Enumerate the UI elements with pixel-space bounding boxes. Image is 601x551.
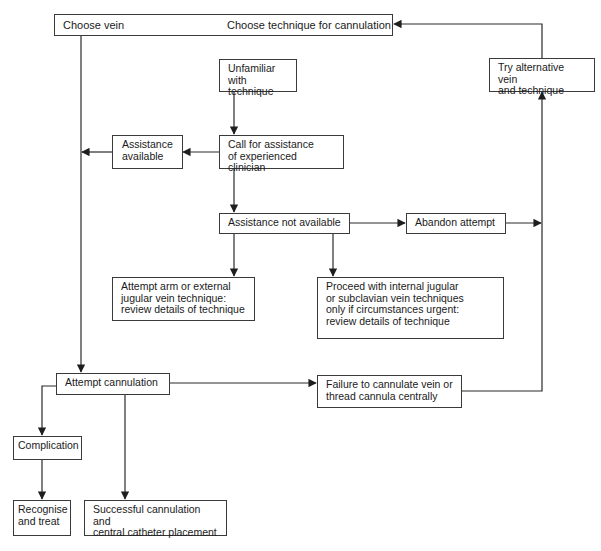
node-attempt-arm: Attempt arm or external jugular vein tec… bbox=[112, 277, 255, 321]
node-call-assistance: Call for assistance of experienced clini… bbox=[219, 135, 344, 169]
edge-attempt-to-complication bbox=[42, 386, 56, 435]
edge-failure-to-try-alternative bbox=[461, 92, 542, 391]
node-abandon-attempt: Abandon attempt bbox=[406, 213, 506, 234]
node-unfamiliar: Unfamiliar with technique bbox=[219, 59, 297, 92]
choose-vein-technique-box: Choose vein Choose technique for cannula… bbox=[54, 14, 393, 36]
node-successful: Successful cannulation and central cathe… bbox=[84, 500, 227, 536]
node-assistance-not-available: Assistance not available bbox=[219, 213, 350, 234]
node-attempt-cannulation: Attempt cannulation bbox=[56, 373, 170, 395]
node-recognise-treat: Recognise and treat bbox=[13, 500, 71, 536]
node-complication: Complication bbox=[13, 436, 82, 460]
node-assistance-available: Assistance available bbox=[112, 135, 183, 169]
edge-try-alternative-to-choose-technique bbox=[394, 24, 542, 58]
choose-technique-label: Choose technique for cannulation bbox=[227, 19, 391, 31]
node-proceed-internal: Proceed with internal jugular or subclav… bbox=[317, 277, 504, 339]
choose-vein-label: Choose vein bbox=[63, 19, 124, 31]
node-try-alternative: Try alternative vein and technique bbox=[489, 58, 595, 92]
node-failure: Failure to cannulate vein or thread cann… bbox=[317, 375, 462, 408]
